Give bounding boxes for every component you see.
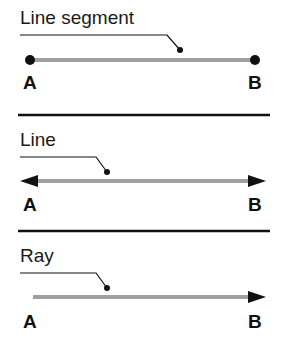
arrowhead-right-icon bbox=[248, 175, 266, 187]
point-b-label: B bbox=[248, 312, 262, 331]
panel-ray bbox=[20, 273, 266, 303]
leader-dot bbox=[177, 47, 183, 53]
point-b-label: B bbox=[248, 73, 262, 92]
leader-line bbox=[20, 157, 107, 172]
arrowhead-left-icon bbox=[20, 175, 38, 187]
leader-dot bbox=[104, 285, 110, 291]
panel-line-segment bbox=[20, 35, 260, 65]
leader-line bbox=[20, 35, 180, 50]
point-a-label: A bbox=[23, 312, 37, 331]
endpoint-b-dot bbox=[250, 55, 260, 65]
label-line-segment: Line segment bbox=[20, 8, 134, 27]
arrowhead-right-icon bbox=[248, 291, 266, 303]
point-a-label: A bbox=[23, 195, 37, 214]
point-a-label: A bbox=[23, 73, 37, 92]
panel-line bbox=[20, 157, 266, 187]
point-b-label: B bbox=[248, 195, 262, 214]
diagram-canvas bbox=[0, 0, 281, 343]
label-line: Line bbox=[20, 130, 56, 149]
leader-line bbox=[20, 273, 107, 288]
label-ray: Ray bbox=[20, 246, 54, 265]
endpoint-a-dot bbox=[25, 55, 35, 65]
leader-dot bbox=[104, 169, 110, 175]
